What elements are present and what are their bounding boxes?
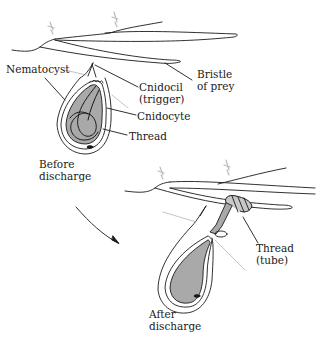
label-cnidocyte: Cnidocyte: [137, 110, 190, 122]
caption-after-line2: discharge: [149, 320, 201, 332]
caption-after-line1: After: [149, 308, 176, 320]
label-bristle-line1: Bristle: [197, 68, 232, 80]
after-cnidocyte: [158, 206, 227, 313]
label-thread: Thread: [129, 130, 167, 142]
label-thread-tube-line1: Thread: [256, 242, 294, 254]
label-bristle-line2: of prey: [197, 80, 234, 92]
label-thread-tube-line2: (tube): [256, 254, 288, 266]
before-cnidocyte: [57, 63, 111, 154]
transition-arrow: [76, 207, 119, 244]
label-nematocyst: Nematocyst: [6, 63, 70, 75]
label-cnidocil-line1: Cnidocil: [139, 81, 183, 93]
before-prey-bristle: [12, 12, 237, 63]
caption-before-line1: Before: [39, 158, 74, 170]
caption-before-line2: discharge: [39, 170, 91, 182]
after-leader-lines: [163, 212, 258, 270]
label-cnidocil-line2: (trigger): [139, 93, 184, 105]
after-everted-thread: [210, 195, 252, 234]
after-prey-bristle: [125, 160, 315, 209]
nematocyst-diagram: Nematocyst Cnidocil (trigger) Bristle of…: [0, 0, 320, 337]
